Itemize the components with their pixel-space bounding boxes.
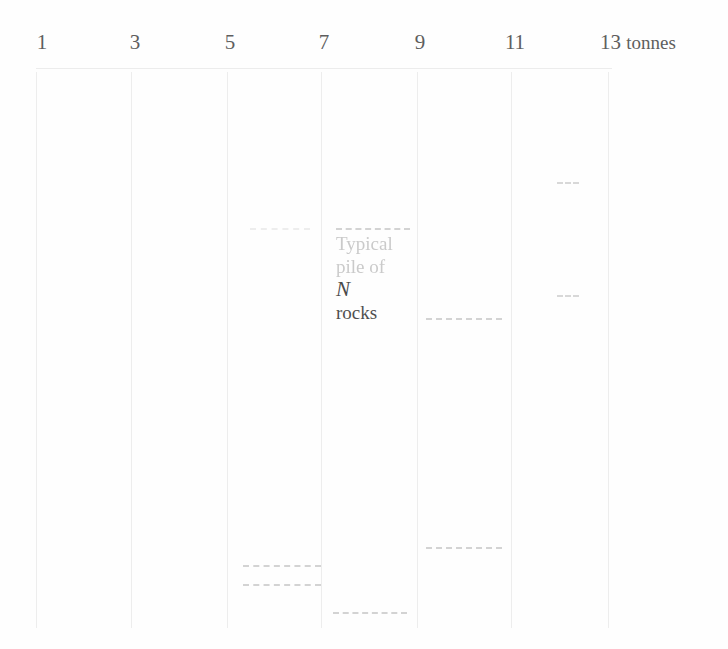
annotation-variable-n: N	[336, 277, 350, 301]
annotation-line-2: pile of	[336, 255, 432, 278]
pile-mark-9-11-a	[426, 318, 502, 320]
axis-header: 1 3 5 7 9 11 13 tonnes	[0, 0, 728, 66]
pile-mark-7-9-b	[333, 612, 407, 614]
axis-tick-9: 9	[415, 30, 426, 54]
axis-tick-7: 7	[319, 30, 330, 54]
plot-area	[0, 66, 728, 649]
axis-tick-3: 3	[130, 30, 141, 54]
bin-column-11-13	[511, 72, 608, 628]
pile-mark-5-7-c	[243, 584, 321, 586]
pile-mark-5-7-a	[250, 228, 310, 230]
annotation-line-4: rocks	[336, 302, 377, 323]
column-rule-13	[608, 72, 609, 628]
bin-column-3-5	[131, 72, 227, 628]
pile-mark-7-9-a	[336, 228, 410, 230]
axis-tick-13: 13 tonnes	[600, 30, 676, 55]
bin-column-9-11	[417, 72, 511, 628]
axis-tick-1: 1	[37, 30, 48, 54]
pile-mark-5-7-b	[243, 565, 321, 567]
pile-mark-11-13-b	[557, 295, 579, 297]
axis-unit-label: tonnes	[626, 32, 676, 53]
axis-tick-11: 11	[505, 30, 525, 54]
pile-mark-11-13-a	[557, 182, 579, 184]
pile-annotation: Typical pile of N rocks	[336, 232, 432, 324]
axis-tick-5: 5	[225, 30, 236, 54]
bin-column-1-3	[36, 72, 131, 628]
axis-tick-13-value: 13	[600, 30, 621, 54]
annotation-line-1: Typical	[336, 232, 432, 255]
bin-column-7-9	[321, 72, 417, 628]
pile-mark-9-11-b	[426, 547, 502, 549]
bin-column-5-7	[227, 72, 321, 628]
plot-top-rule	[36, 68, 612, 69]
